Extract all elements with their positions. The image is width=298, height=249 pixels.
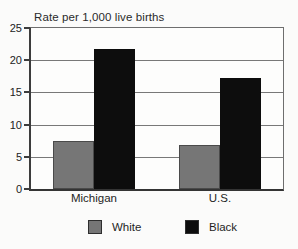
bar-michigan-white (53, 141, 94, 189)
plot-area (29, 27, 284, 191)
y-axis-tick-5 (24, 156, 30, 158)
legend-label-white: White (112, 221, 141, 233)
legend: WhiteBlack (0, 220, 298, 240)
legend-swatch-black (185, 220, 199, 234)
chart-title: Rate per 1,000 live births (34, 11, 164, 23)
y-tick-label-25: 25 (0, 21, 22, 35)
y-tick-label-5: 5 (0, 150, 22, 164)
legend-swatch-white (88, 220, 102, 234)
y-tick-label-0: 0 (0, 182, 22, 196)
y-tick-label-15: 15 (0, 85, 22, 99)
legend-item-black: Black (185, 220, 237, 234)
x-category-label-us: U.S. (170, 192, 270, 204)
y-axis-tick-10 (24, 124, 30, 126)
bar-chart-figure: Rate per 1,000 live births WhiteBlack 05… (0, 0, 298, 249)
x-category-label-michigan: Michigan (44, 192, 144, 204)
legend-item-white: White (88, 220, 141, 234)
y-tick-label-10: 10 (0, 118, 22, 132)
gridline-20 (31, 60, 283, 61)
bar-michigan-black (94, 49, 135, 189)
bar-us-black (220, 78, 261, 189)
legend-label-black: Black (209, 221, 237, 233)
y-tick-label-20: 20 (0, 53, 22, 67)
bar-us-white (179, 145, 220, 189)
y-axis-tick-25 (24, 27, 30, 29)
y-axis-tick-20 (24, 59, 30, 61)
y-axis-tick-0 (24, 188, 30, 190)
y-axis-tick-15 (24, 91, 30, 93)
